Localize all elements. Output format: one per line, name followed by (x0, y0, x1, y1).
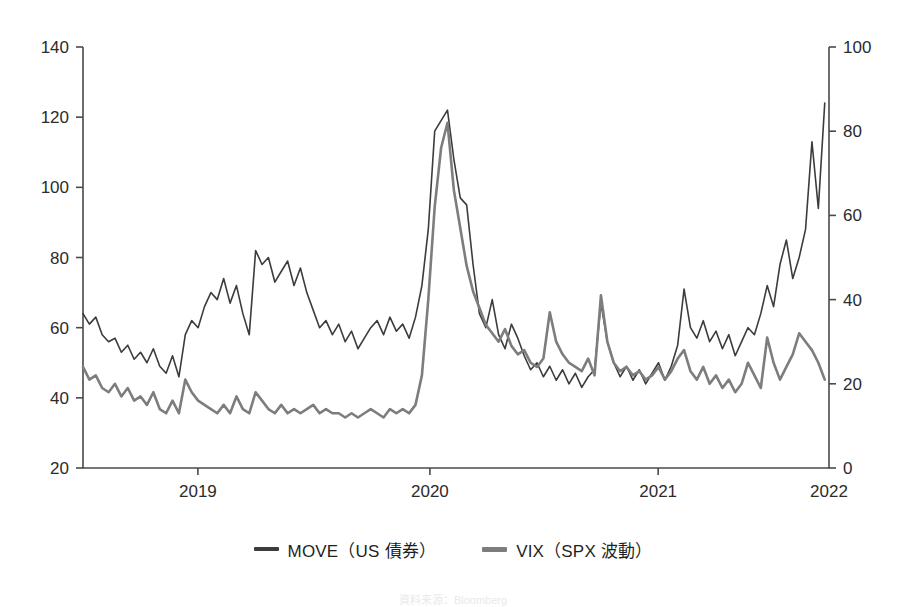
svg-text:20: 20 (843, 375, 862, 394)
legend-swatch-vix (482, 547, 507, 552)
svg-text:60: 60 (50, 319, 69, 338)
legend-swatch-move (254, 547, 279, 551)
svg-text:60: 60 (843, 206, 862, 225)
source-note: 資料来源：Bloomberg (0, 591, 906, 607)
legend-label-move: MOVE（US 債券） (288, 537, 437, 562)
svg-text:120: 120 (41, 108, 69, 127)
legend-label-vix: VIX（SPX 波動） (516, 537, 652, 562)
svg-text:2020: 2020 (411, 482, 449, 501)
svg-text:140: 140 (41, 38, 69, 57)
legend-item-vix[interactable]: VIX（SPX 波動） (482, 537, 652, 562)
svg-text:100: 100 (843, 38, 871, 57)
chart-legend: MOVE（US 債券） VIX（SPX 波動） (0, 534, 906, 564)
svg-text:80: 80 (50, 249, 69, 268)
svg-text:0: 0 (843, 459, 852, 478)
svg-text:80: 80 (843, 122, 862, 141)
svg-text:20: 20 (50, 459, 69, 478)
legend-item-move[interactable]: MOVE（US 債券） (254, 537, 437, 562)
svg-text:2022: 2022 (810, 482, 848, 501)
svg-text:40: 40 (50, 389, 69, 408)
svg-text:100: 100 (41, 178, 69, 197)
svg-text:2021: 2021 (639, 482, 677, 501)
svg-text:40: 40 (843, 291, 862, 310)
svg-text:2019: 2019 (179, 482, 217, 501)
